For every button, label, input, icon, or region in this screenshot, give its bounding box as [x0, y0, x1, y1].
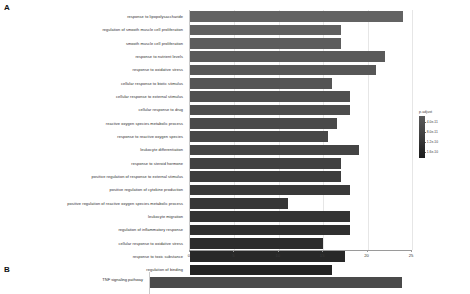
bar-row: [190, 37, 411, 50]
category-label: response to lipopolysaccharide: [0, 10, 186, 23]
bar-row: [190, 223, 411, 236]
legend-colorbar-body: 4.0e-118.0e-111.2e-101.6e-10: [415, 116, 467, 158]
bar-row: [190, 183, 411, 196]
category-label: positive regulation of reactive oxygen s…: [0, 197, 186, 210]
bar-row: [190, 117, 411, 130]
panel-b-category-label: TNF signaling pathway: [0, 277, 146, 282]
bar: [190, 211, 350, 222]
category-label: positive regulation of response to exter…: [0, 170, 186, 183]
bar: [190, 238, 323, 249]
bar-row: [190, 90, 411, 103]
category-label: reactive oxygen species metabolic proces…: [0, 117, 186, 130]
x-tick-label: 15: [320, 253, 325, 258]
grid-line: [412, 10, 413, 250]
bar-row: [190, 210, 411, 223]
panel-a-x-axis: 0510152025: [189, 250, 411, 262]
bar: [190, 65, 376, 76]
category-label: leukocyte migration: [0, 210, 186, 223]
bar: [190, 158, 341, 169]
bar-row: [190, 170, 411, 183]
category-label: cellular response to biotic stimulus: [0, 77, 186, 90]
legend-tick-label: 1.6e-10: [427, 150, 438, 154]
bar: [190, 105, 350, 116]
panel-a-go-enrichment-barchart: response to lipopolysaccharideregulation…: [0, 4, 470, 256]
bar: [190, 78, 332, 89]
bar: [190, 11, 403, 22]
bar-row: [190, 197, 411, 210]
bar-row: [190, 130, 411, 143]
bar: [190, 171, 341, 182]
x-tick-label: 10: [275, 253, 280, 258]
panel-a-legend: p.adjust 4.0e-118.0e-111.2e-101.6e-10: [415, 110, 467, 162]
bar-row: [190, 103, 411, 116]
panel-a-category-labels: response to lipopolysaccharideregulation…: [0, 10, 186, 277]
category-label: smooth muscle cell proliferation: [0, 37, 186, 50]
x-axis-line: [189, 250, 411, 251]
panel-a-bars: [190, 10, 411, 250]
category-label: response to nutrient levels: [0, 50, 186, 63]
bar-row: [190, 23, 411, 36]
panel-b-kegg-barchart: TNF signaling pathway: [0, 272, 470, 294]
bar: [190, 25, 341, 36]
bar-row: [190, 50, 411, 63]
category-label: response to oxidative stress: [0, 63, 186, 76]
category-label: response to steroid hormone: [0, 157, 186, 170]
x-tick-label: 5: [232, 253, 234, 258]
category-label: regulation of smooth muscle cell prolife…: [0, 23, 186, 36]
panel-a-plot-area: [189, 10, 411, 250]
bar: [190, 38, 341, 49]
bar-row: [190, 63, 411, 76]
category-label: cellular response to oxidative stress: [0, 237, 186, 250]
panel-b-plot-area: [149, 272, 411, 294]
bar: [190, 91, 350, 102]
bar: [190, 118, 337, 129]
bar: [190, 131, 328, 142]
bar-row: [190, 77, 411, 90]
bar-row: [190, 157, 411, 170]
category-label: response to reactive oxygen species: [0, 130, 186, 143]
category-label: positive regulation of cytokine producti…: [0, 183, 186, 196]
x-tick-label: 0: [188, 253, 190, 258]
category-label: response to toxic substance: [0, 250, 186, 263]
bar: [190, 225, 350, 236]
legend-tick-label: 4.0e-11: [427, 120, 438, 124]
legend-tick-label: 8.0e-11: [427, 130, 438, 134]
category-label: cellular response to external stimulus: [0, 90, 186, 103]
panel-b-bar: [150, 277, 402, 288]
x-tick-label: 20: [364, 253, 369, 258]
x-tick-label: 25: [409, 253, 414, 258]
category-label: cellular response to drug: [0, 103, 186, 116]
bar: [190, 145, 359, 156]
bar-row: [190, 237, 411, 250]
bar-row: [190, 143, 411, 156]
bar: [190, 185, 350, 196]
legend-title: p.adjust: [419, 110, 467, 114]
category-label: regulation of inflammatory response: [0, 223, 186, 236]
category-label: leukocyte differentiation: [0, 143, 186, 156]
bar-row: [190, 10, 411, 23]
bar: [190, 198, 288, 209]
figure-root: A response to lipopolysaccharideregulati…: [0, 0, 470, 294]
legend-tick-label: 1.2e-10: [427, 140, 438, 144]
bar: [190, 51, 385, 62]
